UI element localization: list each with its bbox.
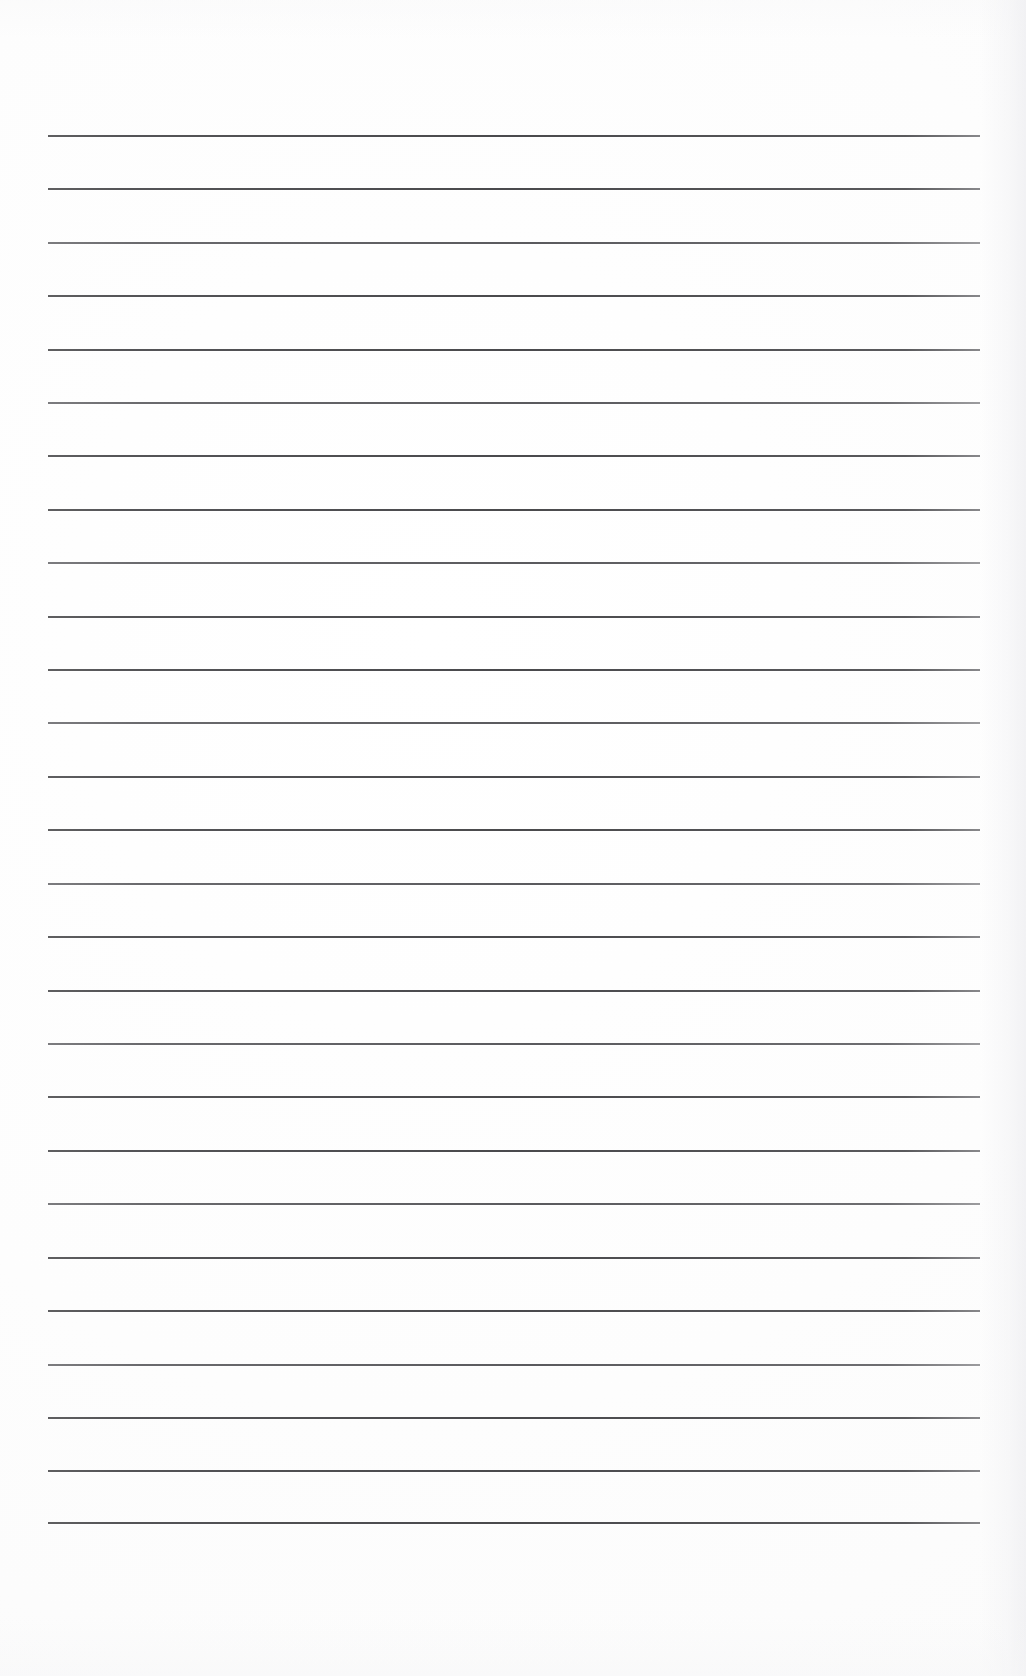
rule-line	[48, 135, 980, 137]
rule-line	[48, 936, 980, 938]
rule-line	[48, 722, 980, 724]
rule-line	[48, 883, 980, 885]
rule-line	[48, 562, 980, 564]
rule-line	[48, 1150, 980, 1152]
rule-line	[48, 1522, 980, 1524]
rule-line	[48, 829, 980, 831]
rule-line	[48, 1310, 980, 1312]
rule-line	[48, 616, 980, 618]
rule-line	[48, 1364, 980, 1366]
rule-line	[48, 295, 980, 297]
rule-line	[48, 402, 980, 404]
rule-line	[48, 1417, 980, 1419]
rule-line	[48, 990, 980, 992]
rule-line	[48, 509, 980, 511]
rule-line	[48, 242, 980, 244]
rule-line	[48, 1257, 980, 1259]
rule-line	[48, 455, 980, 457]
rule-line	[48, 669, 980, 671]
rule-line	[48, 1096, 980, 1098]
ruled-writing-area	[0, 0, 1026, 1676]
rule-line	[48, 1470, 980, 1472]
rule-line	[48, 1043, 980, 1045]
rule-line	[48, 349, 980, 351]
scanned-page	[0, 0, 1026, 1676]
rule-line	[48, 776, 980, 778]
rule-line	[48, 188, 980, 190]
rule-line	[48, 1203, 980, 1205]
